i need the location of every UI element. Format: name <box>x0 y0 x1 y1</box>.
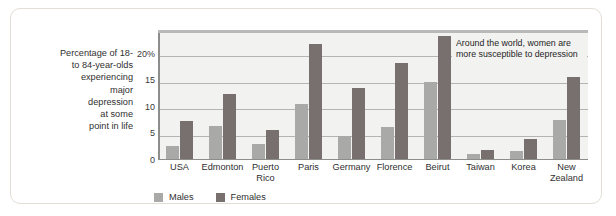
bar-males-edmonton <box>209 126 222 160</box>
x-tick-label-germany: Germany <box>330 162 373 173</box>
x-tick-label-taiwan: Taiwan <box>459 162 502 173</box>
y-tick-label-5: 5 <box>150 128 155 138</box>
bar-group <box>287 33 330 160</box>
bar-group <box>330 33 373 160</box>
x-tick-label-puerto-rico: Puerto Rico <box>244 162 287 184</box>
legend-swatch-males <box>154 193 163 202</box>
bar-females-new-zealand <box>567 77 580 160</box>
bar-females-korea <box>524 139 537 160</box>
bar-females-usa <box>180 121 193 160</box>
bar-males-paris <box>295 104 308 160</box>
bar-females-beirut <box>438 36 451 160</box>
chart-annotation: Around the world, women are more suscept… <box>452 35 587 63</box>
legend-item-males[interactable]: Males <box>154 192 194 202</box>
y-tick-label-15: 15 <box>145 75 155 85</box>
y-axis-caption: Percentage of 18- to 84-year-olds experi… <box>23 47 133 132</box>
x-axis-tick-labels: USAEdmontonPuerto RicoParisGermanyFloren… <box>158 162 588 188</box>
x-axis-line <box>158 159 588 161</box>
legend-label-females: Females <box>231 192 266 202</box>
bar-males-florence <box>381 127 394 160</box>
bar-males-new-zealand <box>553 120 566 160</box>
chart-figure: Percentage of 18- to 84-year-olds experi… <box>10 8 602 204</box>
y-tick-label-20: 20% <box>137 49 155 59</box>
x-tick-label-edmonton: Edmonton <box>201 162 244 173</box>
bar-females-puerto-rico <box>266 130 279 160</box>
bar-males-beirut <box>424 82 437 160</box>
x-tick-label-paris: Paris <box>287 162 330 173</box>
y-tick-label-10: 10 <box>145 102 155 112</box>
x-tick-label-new-zealand: New Zealand <box>545 162 588 184</box>
bar-group <box>244 33 287 160</box>
bar-males-germany <box>338 136 351 160</box>
x-tick-label-florence: Florence <box>373 162 416 173</box>
x-tick-label-usa: USA <box>158 162 201 173</box>
bar-group <box>158 33 201 160</box>
chart-legend: MalesFemales <box>154 192 266 202</box>
y-axis-tick-labels: 05101520% <box>124 30 155 160</box>
bar-group <box>201 33 244 160</box>
x-tick-label-beirut: Beirut <box>416 162 459 173</box>
y-axis-line <box>158 33 160 160</box>
bar-group <box>373 33 416 160</box>
legend-swatch-females <box>216 193 225 202</box>
x-tick-label-korea: Korea <box>502 162 545 173</box>
bar-females-paris <box>309 44 322 160</box>
legend-label-males: Males <box>169 192 194 202</box>
y-tick-label-0: 0 <box>150 155 155 165</box>
bar-females-edmonton <box>223 94 236 160</box>
bar-females-florence <box>395 63 408 160</box>
legend-item-females[interactable]: Females <box>216 192 266 202</box>
bar-females-germany <box>352 88 365 160</box>
